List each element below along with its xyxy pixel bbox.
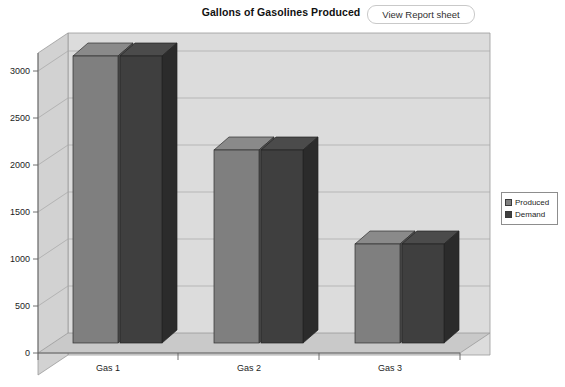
y-tick-label-2000: 2000 bbox=[0, 160, 30, 170]
chart-3d-canvas bbox=[0, 0, 565, 387]
legend-swatch-produced-icon bbox=[505, 199, 512, 206]
chart-screenshot: Gallons of Gasolines Produced View Repor… bbox=[0, 0, 565, 387]
legend-item-demand: Demand bbox=[505, 209, 554, 220]
y-tick-label-2500: 2500 bbox=[0, 113, 30, 123]
bar-gas2-demand bbox=[261, 137, 318, 343]
y-tick-label-3000: 3000 bbox=[0, 66, 30, 76]
y-tick-label-500: 500 bbox=[0, 301, 30, 311]
chart-plot-area: 0 500 1000 1500 2000 2500 3000 Gas 1 Gas… bbox=[0, 0, 565, 387]
legend-label-produced: Produced bbox=[515, 198, 549, 207]
x-category-label-gas2: Gas 2 bbox=[209, 363, 289, 373]
legend-item-produced: Produced bbox=[505, 197, 554, 208]
y-tick-label-0: 0 bbox=[0, 348, 30, 358]
y-axis bbox=[33, 53, 38, 353]
chart-left-wall bbox=[38, 33, 68, 375]
bar-gas1-demand bbox=[120, 43, 177, 343]
x-category-label-gas3: Gas 3 bbox=[350, 363, 430, 373]
y-tick-label-1500: 1500 bbox=[0, 207, 30, 217]
y-tick-label-1000: 1000 bbox=[0, 254, 30, 264]
legend-label-demand: Demand bbox=[515, 210, 545, 219]
chart-legend: Produced Demand bbox=[501, 192, 558, 225]
legend-swatch-demand-icon bbox=[505, 211, 512, 218]
x-category-label-gas1: Gas 1 bbox=[68, 363, 148, 373]
bar-gas3-demand bbox=[402, 231, 459, 343]
